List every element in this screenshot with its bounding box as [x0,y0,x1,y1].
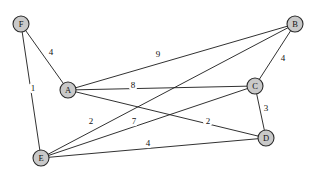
edge-weight-a-b: 9 [156,49,161,59]
edge-weight-c-d: 3 [264,103,269,113]
node-label-c: C [252,81,258,91]
node-label-d: D [263,133,269,143]
graph-svg: 4198227443 FBACDE [0,0,317,177]
nodes-layer: FBACDE [13,16,303,166]
edge-f-a [26,31,64,84]
node-a[interactable]: A [60,82,76,98]
edge-a-c [76,86,247,90]
edge-weight-a-d: 2 [206,116,211,126]
edge-weight-f-e: 1 [31,83,36,93]
node-d[interactable]: D [258,130,274,146]
edge-weight-b-c: 4 [281,53,286,63]
node-label-a: A [65,85,72,95]
node-label-f: F [19,19,24,29]
edge-e-d [49,139,258,158]
node-e[interactable]: E [33,150,49,166]
edge-weight-e-b: 7 [132,116,137,126]
edge-weight-f-a: 4 [49,47,54,57]
edge-weight-e-c: 2 [89,116,94,126]
node-label-b: B [292,19,298,29]
node-label-e: E [38,153,43,163]
graph-diagram-canvas: 4198227443 FBACDE [0,0,317,177]
edge-weight-e-d: 4 [146,138,151,148]
node-b[interactable]: B [287,16,303,32]
edge-a-d [76,92,258,136]
node-f[interactable]: F [13,16,29,32]
node-c[interactable]: C [247,78,263,94]
edge-weight-a-c: 8 [131,80,136,90]
